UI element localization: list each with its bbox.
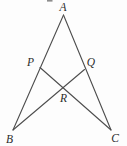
segment-BQ	[13, 70, 85, 131]
segment-AB	[13, 15, 64, 130]
segment-AC	[64, 15, 112, 130]
point-label-Q: Q	[87, 56, 96, 68]
point-label-A: A	[58, 1, 67, 13]
point-label-P: P	[26, 56, 34, 68]
cropped-text-artifact	[47, 0, 53, 2]
geometry-diagram: ABCPQR	[0, 0, 127, 146]
point-label-B: B	[6, 133, 13, 145]
point-label-C: C	[111, 132, 119, 144]
point-label-R: R	[59, 92, 67, 104]
geometry-figure: ABCPQR	[0, 0, 127, 146]
